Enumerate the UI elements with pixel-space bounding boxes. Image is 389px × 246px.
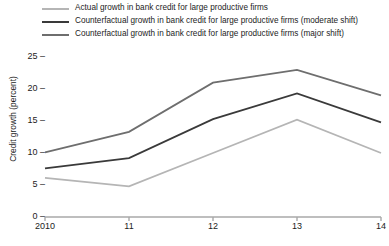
- chart-legend: Actual growth in bank credit for large p…: [42, 2, 387, 41]
- x-tick-label: 12: [208, 221, 218, 231]
- plot-area: Credit growth (percent) 0 –5 –10 –15 –20…: [0, 46, 389, 246]
- chart-canvas: [0, 46, 389, 246]
- legend-swatch-line-2: [42, 34, 69, 36]
- legend-label: Counterfactual growth in bank credit for…: [75, 16, 358, 26]
- data-series-line-0: [45, 120, 381, 187]
- x-tick-label: 14: [376, 221, 386, 231]
- legend-item: Actual growth in bank credit for large p…: [42, 2, 387, 14]
- legend-label: Counterfactual growth in bank credit for…: [75, 29, 344, 39]
- x-tick-label: 2010: [35, 221, 55, 231]
- legend-item: Counterfactual growth in bank credit for…: [42, 15, 387, 27]
- data-series-line-1: [45, 93, 381, 168]
- legend-swatch-line-1: [42, 21, 69, 23]
- x-tick-label: 13: [292, 221, 302, 231]
- legend-item: Counterfactual growth in bank credit for…: [42, 28, 387, 40]
- data-series-line-2: [45, 70, 381, 153]
- chart-page: Actual growth in bank credit for large p…: [0, 0, 389, 246]
- legend-label: Actual growth in bank credit for large p…: [75, 3, 268, 13]
- legend-swatch-line-0: [42, 8, 69, 10]
- x-tick-label: 11: [124, 221, 133, 231]
